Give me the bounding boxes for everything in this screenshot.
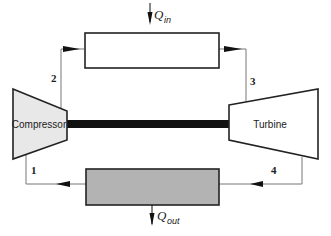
compressor-label: Compressor xyxy=(12,119,67,130)
heat-rejection-exchanger xyxy=(86,169,219,205)
q-out-subscript: out xyxy=(167,216,180,226)
flow-arrow-icon xyxy=(250,181,263,187)
heat-out-indicator: Q out xyxy=(150,205,181,226)
q-in-subscript: in xyxy=(164,15,171,25)
arrow-down-icon xyxy=(150,213,155,226)
brayton-cycle-diagram: Compressor Turbine Q in Q out 2 3 1 4 xyxy=(0,0,331,236)
flow-arrow-icon xyxy=(224,46,242,52)
state-label-3: 3 xyxy=(250,75,256,87)
heat-in-indicator: Q in xyxy=(148,3,172,25)
q-in-symbol: Q xyxy=(154,7,164,22)
heat-addition-exchanger xyxy=(85,33,219,68)
pipe-state-2 xyxy=(61,46,84,108)
state-label-4: 4 xyxy=(271,164,277,176)
pipe-state-4 xyxy=(219,157,302,187)
q-out-symbol: Q xyxy=(157,208,167,223)
shaft xyxy=(66,120,230,128)
arrow-down-icon xyxy=(148,12,153,25)
state-label-1: 1 xyxy=(31,164,37,176)
turbine-label: Turbine xyxy=(253,119,287,130)
flow-arrow-icon xyxy=(63,46,80,52)
state-label-2: 2 xyxy=(51,72,57,84)
flow-arrow-icon xyxy=(56,181,70,187)
pipe-state-3 xyxy=(219,46,246,101)
